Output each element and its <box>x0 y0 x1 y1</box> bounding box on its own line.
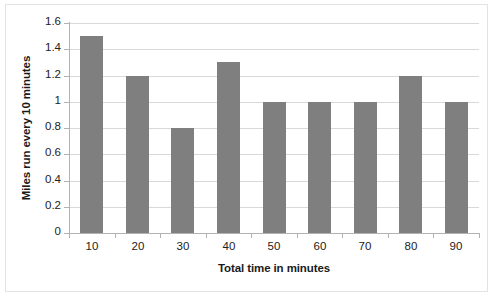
x-tick-mark <box>69 233 70 238</box>
x-tick-mark <box>160 233 161 238</box>
bar <box>263 102 286 233</box>
bar <box>217 62 240 233</box>
bar <box>354 102 377 233</box>
y-tick-label: 1.4 <box>23 41 61 53</box>
x-tick-mark <box>433 233 434 238</box>
x-tick-mark <box>479 233 480 238</box>
x-tick-mark <box>388 233 389 238</box>
x-tick-label: 40 <box>206 240 252 252</box>
y-tick-label: 0.2 <box>23 199 61 211</box>
x-tick-label: 60 <box>297 240 343 252</box>
x-tick-label: 10 <box>69 240 115 252</box>
x-tick-mark <box>297 233 298 238</box>
x-axis-title: Total time in minutes <box>69 262 479 274</box>
x-tick-label: 80 <box>388 240 434 252</box>
y-tick-label: 1.6 <box>23 15 61 27</box>
y-tick-label: 0.8 <box>23 120 61 132</box>
bar <box>126 76 149 233</box>
bar <box>308 102 331 233</box>
x-tick-mark <box>251 233 252 238</box>
chart-frame: Miles run every 10 minutes 00.20.40.60.8… <box>5 4 488 292</box>
y-tick-label: 0 <box>23 225 61 237</box>
x-tick-mark <box>115 233 116 238</box>
y-axis-line <box>69 22 70 234</box>
x-tick-label: 90 <box>433 240 479 252</box>
gridline <box>69 23 479 24</box>
y-tick-label: 0.4 <box>23 173 61 185</box>
gridline <box>69 49 479 50</box>
x-tick-mark <box>206 233 207 238</box>
y-tick-label: 0.6 <box>23 146 61 158</box>
bar <box>80 36 103 233</box>
x-tick-mark <box>342 233 343 238</box>
x-tick-label: 70 <box>342 240 388 252</box>
bar <box>399 76 422 233</box>
x-tick-label: 50 <box>251 240 297 252</box>
y-tick-label: 1.2 <box>23 68 61 80</box>
x-axis-line <box>69 233 480 234</box>
x-tick-label: 20 <box>115 240 161 252</box>
y-tick-label: 1 <box>23 94 61 106</box>
bar <box>445 102 468 233</box>
x-tick-label: 30 <box>160 240 206 252</box>
bar <box>171 128 194 233</box>
